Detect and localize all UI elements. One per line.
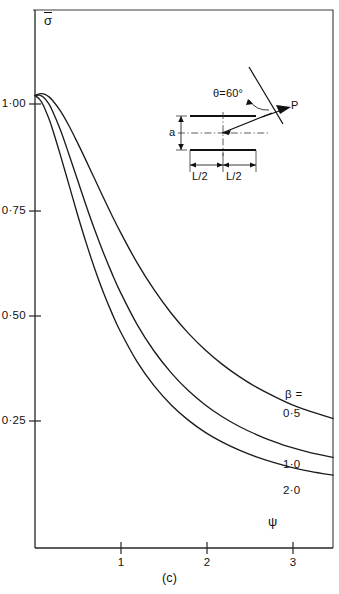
x-tick-label-3: 3 (283, 557, 303, 569)
figure-panel: σ ψ 1·00 0·75 0·50 0·25 1 2 3 β = 0·5 1·… (0, 0, 339, 594)
inset-l-arrow-right-outer (250, 162, 256, 167)
inset-force-label: P (291, 100, 299, 111)
x-tick-label-1: 1 (111, 557, 131, 569)
inset-height-label: a (169, 127, 175, 138)
y-tick-label-0-25: 0·25 (0, 415, 26, 427)
inset-a-arrowhead-top (178, 116, 184, 122)
inset-diagram (176, 67, 291, 172)
y-axis-title: σ (44, 14, 52, 27)
curve-label-beta-0-5: 0·5 (283, 408, 301, 420)
curve-beta-0-5 (35, 94, 333, 419)
y-axis-title-text: σ (44, 14, 52, 27)
y-tick-label-0-75: 0·75 (0, 205, 26, 217)
inset-theta-arrowhead (246, 99, 253, 105)
figure-caption: (c) (0, 572, 339, 585)
legend-parameter-label: β = (285, 389, 302, 401)
inset-half-length-right-label: L/2 (226, 171, 242, 182)
curve-label-beta-2-0: 2·0 (283, 485, 301, 497)
inset-l-arrow-left-outer (190, 162, 196, 167)
inset-theta-arc (249, 100, 269, 110)
inset-l-arrow-left-inner (217, 162, 223, 167)
plot-canvas (0, 0, 339, 594)
inset-angle-label: θ=60° (213, 88, 243, 99)
figure-frame: σ ψ 1·00 0·75 0·50 0·25 1 2 3 β = 0·5 1·… (0, 0, 339, 594)
inset-half-length-left-label: L/2 (192, 171, 208, 182)
inset-p-arrowhead (276, 105, 291, 114)
inset-a-arrowhead-bottom (178, 144, 184, 150)
curve-label-beta-1-0: 1·0 (283, 459, 301, 471)
inset-l-arrow-right-inner (223, 162, 229, 167)
x-tick-label-2: 2 (197, 557, 217, 569)
y-tick-label-1-00: 1·00 (0, 98, 26, 110)
x-axis-title: ψ (268, 515, 277, 528)
y-tick-label-0-50: 0·50 (0, 310, 26, 322)
